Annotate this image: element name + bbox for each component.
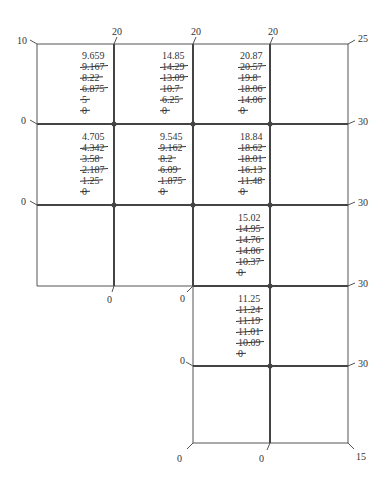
boundary-label-right-row4: 30 [358, 359, 368, 369]
boundary-label-bottom-mid: 0 [259, 454, 264, 464]
grid-cell-4: 4.705 4.342 3.58 2.187 1.25 0 [82, 131, 105, 197]
iteration-value: 11.48 [240, 175, 262, 186]
iteration-value: 8.22 [82, 72, 100, 83]
iteration-value: 13.09 [162, 72, 185, 83]
boundary-label-right-row2: 30 [358, 198, 368, 208]
iteration-value: 0 [238, 348, 243, 359]
boundary-label-right-row1: 30 [358, 117, 368, 127]
iteration-value: 9.167 [82, 61, 105, 72]
boundary-label-bottom-right: 15 [356, 452, 366, 462]
final-value: 4.705 [82, 131, 105, 142]
iteration-value: 19.8 [240, 72, 258, 83]
grid-cell-1: 9.659 9.167 8.22 6.875 5 0 [82, 50, 105, 116]
boundary-label-right-row3: 30 [358, 279, 368, 289]
boundary-label-top-right: 25 [358, 34, 368, 44]
iteration-value: 18.01 [240, 153, 263, 164]
iteration-value: 5 [82, 94, 87, 105]
iteration-value: 18.62 [240, 142, 263, 153]
iteration-value: 10.7 [162, 83, 180, 94]
boundary-label-bottom-step2: 0 [180, 294, 185, 304]
iteration-value: 10.37 [238, 256, 261, 267]
boundary-label-top-left: 10 [17, 36, 27, 46]
boundary-label-left-row4: 0 [180, 356, 185, 366]
iteration-value: 8.2 [160, 153, 173, 164]
iteration-value: 14.76 [238, 234, 261, 245]
iteration-value: 14.95 [238, 223, 261, 234]
iteration-value: 16.13 [240, 164, 263, 175]
boundary-label-top-3: 20 [268, 27, 278, 37]
iteration-value: 1.25 [82, 175, 100, 186]
iteration-value: 0 [238, 267, 243, 278]
final-value: 20.87 [240, 50, 263, 61]
iteration-value: 6.25 [162, 94, 180, 105]
iteration-value: 0 [162, 105, 167, 116]
grid-cell-2: 14.85 14.29 13.09 10.7 6.25 0 [162, 50, 185, 116]
grid-cell-7: 15.02 14.95 14.76 14.06 10.37 0 [238, 212, 261, 278]
iteration-value: 14.06 [240, 94, 263, 105]
iteration-value: 6.09 [160, 164, 178, 175]
grid-cell-3: 20.87 20.57 19.8 18.06 14.06 0 [240, 50, 263, 116]
boundary-label-left-row1: 0 [21, 116, 26, 126]
iteration-value: 9.162 [160, 142, 183, 153]
final-value: 9.545 [160, 131, 183, 142]
grid-lines [0, 0, 389, 486]
final-value: 11.25 [238, 293, 261, 304]
iteration-value: 2.187 [82, 164, 105, 175]
boundary-label-top-1: 20 [112, 27, 122, 37]
iteration-value: 0 [240, 105, 245, 116]
iteration-value: 11.24 [238, 304, 260, 315]
iteration-value: 0 [160, 186, 165, 197]
grid-cell-8: 11.25 11.24 11.19 11.01 10.09 0 [238, 293, 261, 359]
iteration-value: 3.58 [82, 153, 100, 164]
iteration-value: 14.29 [162, 61, 185, 72]
iteration-value: 20.57 [240, 61, 263, 72]
boundary-label-bottom-step1: 0 [107, 295, 112, 305]
boundary-label-left-row2: 0 [21, 197, 26, 207]
iteration-value: 10.09 [238, 337, 261, 348]
iteration-value: 0 [240, 186, 245, 197]
iteration-value: 4.342 [82, 142, 105, 153]
iteration-value: 0 [82, 105, 87, 116]
boundary-label-bottom-left: 0 [177, 454, 182, 464]
grid-cell-5: 9.545 9.162 8.2 6.09 1.875 0 [160, 131, 183, 197]
iteration-value: 6.875 [82, 83, 105, 94]
boundary-label-top-2: 20 [191, 27, 201, 37]
iteration-value: 1.875 [160, 175, 183, 186]
final-value: 9.659 [82, 50, 105, 61]
iteration-value: 18.06 [240, 83, 263, 94]
iteration-value: 11.19 [238, 315, 260, 326]
final-value: 15.02 [238, 212, 261, 223]
final-value: 14.85 [162, 50, 185, 61]
iteration-value: 14.06 [238, 245, 261, 256]
grid-cell-6: 18.84 18.62 18.01 16.13 11.48 0 [240, 131, 263, 197]
iteration-value: 0 [82, 186, 87, 197]
iteration-value: 11.01 [238, 326, 260, 337]
final-value: 18.84 [240, 131, 263, 142]
